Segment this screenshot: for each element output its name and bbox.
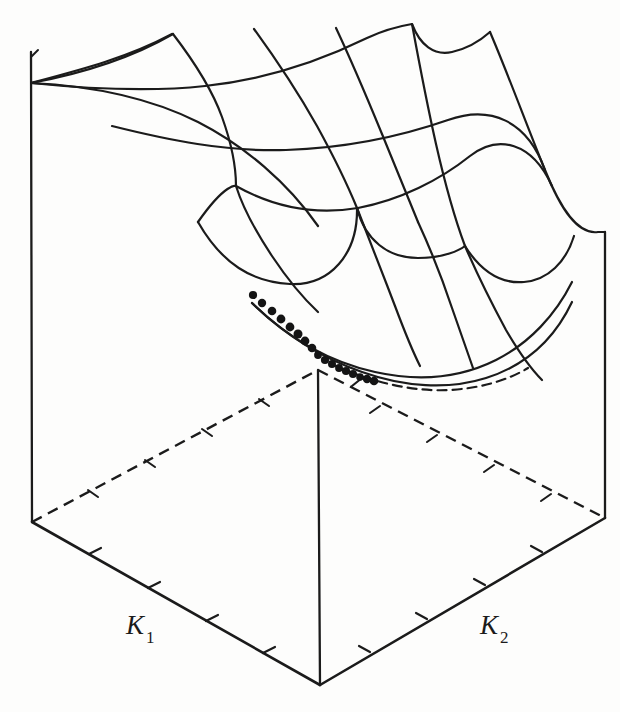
trajectory-point bbox=[335, 364, 343, 372]
tick-k2-front-1 bbox=[359, 646, 370, 652]
surface-vline-2 bbox=[173, 34, 236, 186]
figure-root: K 1 K 2 bbox=[0, 0, 620, 712]
trajectory-point bbox=[314, 351, 322, 359]
tick-k2-back-3 bbox=[202, 429, 212, 436]
trajectory-point bbox=[370, 377, 379, 386]
trajectory-point bbox=[308, 344, 317, 353]
surface-uline-0 bbox=[31, 34, 172, 83]
axis-labels: K 1 K 2 bbox=[125, 610, 509, 647]
surface-uline-7 bbox=[252, 282, 572, 377]
trajectory-point bbox=[321, 356, 329, 364]
trajectory-point bbox=[342, 367, 350, 375]
tick-k1-back-4 bbox=[541, 494, 551, 501]
surface-vline-8 bbox=[412, 24, 465, 246]
tick-k2-front-3 bbox=[474, 579, 485, 585]
axis-edge-k1-back bbox=[318, 370, 605, 518]
tick-k1-front-4 bbox=[263, 647, 275, 653]
tick-k1-back-1 bbox=[370, 406, 380, 413]
surface-trough-floor bbox=[252, 302, 572, 385]
ticks-k1-back bbox=[370, 406, 551, 501]
trajectory-point bbox=[249, 291, 257, 299]
trajectory-point bbox=[301, 337, 310, 346]
surface-uline-4 bbox=[198, 208, 357, 284]
trajectory-point bbox=[349, 370, 357, 378]
axis-label-k2-main: K bbox=[479, 610, 500, 640]
vertical-axis-front bbox=[318, 370, 320, 685]
tick-k2-front-4 bbox=[531, 546, 542, 552]
ticks-k1-front bbox=[89, 548, 275, 653]
tick-k2-front-2 bbox=[416, 613, 427, 619]
surface-vline-4 bbox=[254, 29, 357, 208]
trajectory-point bbox=[294, 330, 303, 339]
axis-edge-k2-back bbox=[32, 370, 318, 522]
surface-vline-3 bbox=[236, 186, 318, 312]
axis-edge-k1-front bbox=[32, 522, 320, 685]
surface-uline-6 bbox=[465, 236, 574, 282]
trajectory-point bbox=[356, 373, 364, 381]
vertical-axis-left bbox=[31, 52, 32, 522]
tick-k1-front-2 bbox=[148, 582, 160, 588]
surface-vline-1 bbox=[31, 83, 318, 226]
surface-wireframe bbox=[31, 24, 605, 390]
surface-vline-right-edge bbox=[490, 32, 605, 232]
tick-k2-back-2 bbox=[145, 460, 155, 467]
tick-k2-back-1 bbox=[88, 490, 98, 497]
surface-vline-9 bbox=[465, 246, 542, 380]
response-surface-figure: K 1 K 2 bbox=[0, 0, 620, 712]
axis-label-k2-subscript: 2 bbox=[500, 628, 509, 647]
surface-uline-1 bbox=[31, 24, 490, 89]
tick-k1-back-2 bbox=[427, 435, 437, 442]
axis-label-k1-main: K bbox=[125, 610, 146, 640]
axis-frame bbox=[31, 50, 605, 685]
surface-vline-0 bbox=[31, 34, 173, 83]
axis-edge-k2-front bbox=[320, 518, 605, 685]
trajectory-point bbox=[268, 307, 277, 316]
axis-label-k1-subscript: 1 bbox=[146, 628, 155, 647]
trajectory-point bbox=[277, 315, 286, 324]
surface-uline-2 bbox=[112, 114, 545, 170]
tick-k1-front-1 bbox=[89, 548, 101, 554]
trajectory-point bbox=[328, 360, 336, 368]
tick-k1-back-3 bbox=[484, 465, 494, 472]
ticks-k2-back bbox=[88, 399, 269, 497]
trajectory-point bbox=[286, 323, 295, 332]
tick-k1-front-3 bbox=[206, 615, 218, 621]
ticks-k2-front bbox=[359, 546, 542, 652]
trajectory-point bbox=[258, 299, 266, 307]
